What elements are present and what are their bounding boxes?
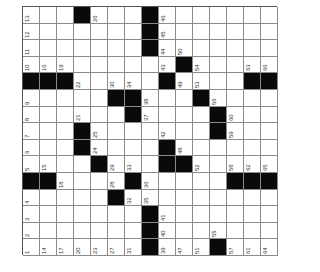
crossword-cell[interactable]: [227, 190, 244, 207]
crossword-cell[interactable]: 53: [193, 73, 210, 90]
crossword-cell[interactable]: [193, 123, 210, 140]
crossword-cell[interactable]: [40, 190, 57, 207]
crossword-cell[interactable]: [57, 156, 74, 173]
crossword-cell[interactable]: 65: [261, 156, 278, 173]
crossword-cell[interactable]: [108, 206, 125, 223]
crossword-cell[interactable]: [244, 123, 261, 140]
crossword-cell[interactable]: [142, 57, 159, 74]
crossword-cell[interactable]: 58: [227, 156, 244, 173]
crossword-cell[interactable]: [210, 156, 227, 173]
crossword-cell[interactable]: [74, 40, 91, 57]
crossword-cell[interactable]: 64: [261, 239, 278, 256]
crossword-cell[interactable]: 22: [74, 73, 91, 90]
crossword-cell[interactable]: 34: [125, 73, 142, 90]
crossword-cell[interactable]: [244, 7, 261, 24]
crossword-cell[interactable]: 21: [74, 107, 91, 124]
crossword-cell[interactable]: [261, 24, 278, 41]
crossword-cell[interactable]: 28: [108, 173, 125, 190]
crossword-cell[interactable]: [91, 90, 108, 107]
crossword-cell[interactable]: [159, 107, 176, 124]
crossword-cell[interactable]: [91, 190, 108, 207]
crossword-cell[interactable]: [40, 7, 57, 24]
crossword-cell[interactable]: [244, 140, 261, 157]
crossword-cell[interactable]: [74, 156, 91, 173]
crossword-cell[interactable]: 18: [57, 173, 74, 190]
crossword-cell[interactable]: [57, 190, 74, 207]
crossword-cell[interactable]: 4: [23, 190, 40, 207]
crossword-cell[interactable]: 19: [57, 57, 74, 74]
crossword-cell[interactable]: 45: [159, 24, 176, 41]
crossword-cell[interactable]: [125, 7, 142, 24]
crossword-cell[interactable]: [108, 123, 125, 140]
crossword-cell[interactable]: [40, 223, 57, 240]
crossword-cell[interactable]: [176, 7, 193, 24]
crossword-cell[interactable]: 61: [244, 239, 261, 256]
crossword-cell[interactable]: [40, 24, 57, 41]
crossword-cell[interactable]: [244, 90, 261, 107]
crossword-cell[interactable]: [210, 24, 227, 41]
crossword-cell[interactable]: 27: [108, 239, 125, 256]
crossword-cell[interactable]: 49: [176, 73, 193, 90]
crossword-cell[interactable]: [108, 7, 125, 24]
crossword-cell[interactable]: [125, 123, 142, 140]
crossword-cell[interactable]: [57, 123, 74, 140]
crossword-cell[interactable]: 48: [176, 140, 193, 157]
crossword-cell[interactable]: 17: [57, 239, 74, 256]
crossword-cell[interactable]: [244, 107, 261, 124]
crossword-cell[interactable]: [261, 7, 278, 24]
crossword-cell[interactable]: 25: [91, 123, 108, 140]
crossword-cell[interactable]: [125, 57, 142, 74]
crossword-cell[interactable]: [57, 223, 74, 240]
crossword-cell[interactable]: [91, 223, 108, 240]
crossword-cell[interactable]: [244, 223, 261, 240]
crossword-cell[interactable]: [210, 173, 227, 190]
crossword-cell[interactable]: [40, 40, 57, 57]
crossword-cell[interactable]: [193, 40, 210, 57]
crossword-cell[interactable]: [74, 223, 91, 240]
crossword-cell[interactable]: 56: [210, 90, 227, 107]
crossword-cell[interactable]: [91, 206, 108, 223]
crossword-cell[interactable]: [108, 57, 125, 74]
crossword-cell[interactable]: [227, 40, 244, 57]
crossword-cell[interactable]: [176, 107, 193, 124]
crossword-cell[interactable]: [210, 140, 227, 157]
crossword-cell[interactable]: 44: [159, 40, 176, 57]
crossword-cell[interactable]: [142, 123, 159, 140]
crossword-cell[interactable]: 60: [227, 107, 244, 124]
crossword-cell[interactable]: [40, 123, 57, 140]
crossword-cell[interactable]: [91, 73, 108, 90]
crossword-cell[interactable]: 46: [159, 7, 176, 24]
crossword-cell[interactable]: 10: [23, 57, 40, 74]
crossword-cell[interactable]: 38: [142, 90, 159, 107]
crossword-cell[interactable]: [40, 107, 57, 124]
crossword-cell[interactable]: 24: [91, 140, 108, 157]
crossword-cell[interactable]: [261, 40, 278, 57]
crossword-cell[interactable]: [227, 57, 244, 74]
crossword-cell[interactable]: [261, 123, 278, 140]
crossword-cell[interactable]: 47: [176, 239, 193, 256]
crossword-cell[interactable]: [40, 90, 57, 107]
crossword-cell[interactable]: 32: [125, 190, 142, 207]
crossword-cell[interactable]: [261, 90, 278, 107]
crossword-cell[interactable]: 66: [261, 57, 278, 74]
crossword-cell[interactable]: 50: [176, 40, 193, 57]
crossword-cell[interactable]: [159, 173, 176, 190]
crossword-cell[interactable]: [227, 206, 244, 223]
crossword-cell[interactable]: [227, 73, 244, 90]
crossword-cell[interactable]: [57, 7, 74, 24]
crossword-cell[interactable]: 12: [23, 24, 40, 41]
crossword-cell[interactable]: 55: [210, 223, 227, 240]
crossword-cell[interactable]: 29: [108, 156, 125, 173]
crossword-cell[interactable]: [108, 107, 125, 124]
crossword-cell[interactable]: [210, 7, 227, 24]
crossword-cell[interactable]: [91, 173, 108, 190]
crossword-cell[interactable]: 52: [193, 156, 210, 173]
crossword-cell[interactable]: 39: [159, 239, 176, 256]
crossword-cell[interactable]: [57, 206, 74, 223]
crossword-cell[interactable]: [57, 40, 74, 57]
crossword-cell[interactable]: [142, 140, 159, 157]
crossword-cell[interactable]: 59: [227, 123, 244, 140]
crossword-cell[interactable]: 8: [23, 107, 40, 124]
crossword-cell[interactable]: 40: [159, 223, 176, 240]
crossword-cell[interactable]: [244, 190, 261, 207]
